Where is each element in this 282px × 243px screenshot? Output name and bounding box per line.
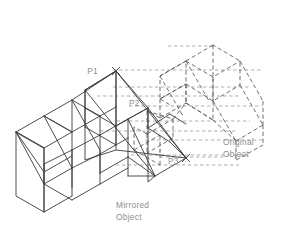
mirrored-object xyxy=(16,71,186,212)
original-object xyxy=(134,45,263,165)
projection-lines xyxy=(97,46,262,165)
original-object-label-line2: Object xyxy=(223,149,249,159)
original-object-label-line1: Original xyxy=(223,137,254,147)
point-label-p3: P3 xyxy=(168,156,179,166)
mirrored-object-label-line1: Mirrored xyxy=(116,200,149,210)
drawing-canvas: P1 P2 P3 Mirrored Object Original Object xyxy=(0,0,282,243)
isometric-drawing: P1 P2 P3 Mirrored Object Original Object xyxy=(0,0,282,243)
point-label-p2: P2 xyxy=(129,98,140,108)
mirrored-object-label-line2: Object xyxy=(116,212,142,222)
point-label-p1: P1 xyxy=(87,66,98,76)
